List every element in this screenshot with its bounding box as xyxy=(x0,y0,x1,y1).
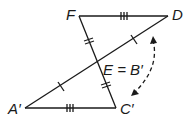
tick-marks-ec xyxy=(101,82,111,88)
arrowhead-down-icon xyxy=(131,89,139,96)
label-c: C′ xyxy=(120,101,134,116)
label-a: A′ xyxy=(8,101,21,116)
arrowhead-up-icon xyxy=(150,36,157,44)
segment-da xyxy=(25,16,168,108)
label-f: F xyxy=(66,7,75,22)
label-e-b: E = B′ xyxy=(103,62,143,77)
label-d: D xyxy=(172,7,183,22)
diagram-canvas xyxy=(0,0,192,119)
